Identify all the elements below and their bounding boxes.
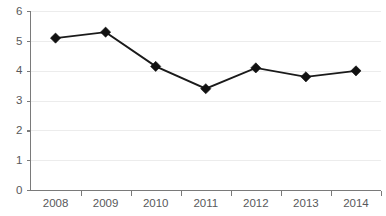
chart-canvas: 0123456 2008200920102011201220132014	[0, 0, 386, 216]
y-tick-label-6: 6	[16, 5, 22, 17]
x-tick-label-2012: 2012	[243, 197, 269, 209]
y-tick-label-3: 3	[16, 94, 22, 106]
x-tick-label-2014: 2014	[343, 197, 369, 209]
x-tick-label-2008: 2008	[43, 197, 69, 209]
y-tick-label-5: 5	[16, 35, 22, 47]
chart-background	[0, 0, 386, 216]
y-tick-label-4: 4	[16, 64, 23, 76]
y-tick-label-0: 0	[16, 184, 22, 196]
x-tick-label-2010: 2010	[143, 197, 169, 209]
y-tick-label-1: 1	[16, 154, 22, 166]
x-tick-label-2013: 2013	[293, 197, 319, 209]
x-tick-label-2009: 2009	[93, 197, 119, 209]
x-tick-label-2011: 2011	[193, 197, 218, 209]
line-chart: 0123456 2008200920102011201220132014	[0, 0, 386, 216]
y-tick-label-2: 2	[16, 124, 22, 136]
